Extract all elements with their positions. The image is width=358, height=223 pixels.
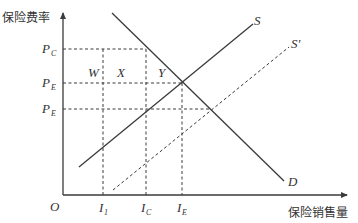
svg-text:E: E	[50, 83, 56, 92]
quantity-label-ic: I C	[140, 200, 152, 217]
supply-shifted-curve	[113, 47, 289, 190]
svg-text:P: P	[41, 41, 50, 56]
price-label-pe-lower: P E	[41, 101, 56, 118]
supply-shifted-curve-label: S'	[291, 36, 301, 51]
supply-curve-label: S	[254, 13, 261, 28]
svg-text:E: E	[50, 109, 56, 118]
svg-text:1: 1	[104, 208, 108, 217]
price-label-pc: P C	[41, 41, 57, 58]
svg-text:P: P	[41, 101, 50, 116]
area-label-x: X	[116, 65, 126, 80]
origin-label: O	[50, 199, 60, 214]
svg-text:C: C	[146, 208, 152, 217]
x-axis-title: 保险销售量	[288, 205, 348, 220]
price-label-pe-upper: P E	[41, 75, 56, 92]
svg-text:E: E	[181, 208, 187, 217]
svg-text:C: C	[51, 49, 57, 58]
area-label-w: W	[88, 65, 100, 80]
demand-curve	[112, 13, 284, 181]
supply-curve	[79, 24, 253, 167]
svg-text:P: P	[41, 75, 50, 90]
area-label-y: Y	[158, 65, 167, 80]
y-axis-title: 保险费率	[2, 10, 50, 25]
quantity-label-i1: I 1	[98, 200, 108, 217]
insurance-market-diagram: 保险费率 保险销售量 O S S' D P C P E P E I 1 I C …	[0, 0, 358, 223]
demand-curve-label: D	[287, 174, 298, 189]
quantity-label-ie: I E	[176, 200, 187, 217]
